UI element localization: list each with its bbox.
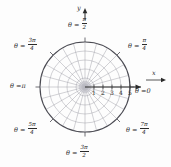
fraction-numerator: π [142, 38, 148, 45]
fraction-pi-2: π 2 [82, 17, 88, 30]
theta-eq-5pi-4: θ = [14, 126, 25, 134]
x-tick-4: 4 [119, 89, 123, 96]
polar-grid-figure: y x 1 2 3 4 5 θ =0 θ = π 4 θ = π 2 θ = 3… [0, 0, 171, 167]
theta-eq-pi-4: θ = [128, 42, 139, 50]
x-tick-2: 2 [101, 89, 105, 96]
theta-value-0: 0 [146, 87, 150, 95]
fraction-denominator: 2 [82, 24, 88, 30]
theta-label-5pi-4: θ = 5π 4 [14, 122, 37, 135]
fraction-5pi-4: 5π 4 [28, 122, 37, 135]
theta-label-3pi-2: θ = 3π 2 [66, 145, 89, 158]
theta-eq-pi-2: θ = [68, 21, 79, 29]
x-tick-5: 5 [128, 89, 132, 96]
fraction-denominator: 2 [80, 152, 89, 158]
fraction-numerator: π [82, 17, 88, 24]
fraction-numerator: 7π [140, 122, 149, 129]
theta-eq-3pi-4: θ = [14, 42, 25, 50]
fraction-3pi-4: 3π 4 [28, 38, 37, 51]
theta-label-3pi-4: θ = 3π 4 [14, 38, 37, 51]
fraction-numerator: 3π [28, 38, 37, 45]
fraction-denominator: 4 [28, 129, 37, 135]
fraction-7pi-4: 7π 4 [140, 122, 149, 135]
y-axis-label: y [77, 5, 81, 12]
fraction-denominator: 4 [28, 45, 37, 51]
y-axis-arrowhead [83, 8, 88, 13]
fraction-pi-4: π 4 [142, 38, 148, 51]
theta-eq-pi: θ = [10, 82, 21, 90]
theta-label-pi: θ =π [10, 83, 26, 90]
x-tick-3: 3 [110, 89, 114, 96]
x-axis-label: x [152, 70, 156, 77]
fraction-3pi-2: 3π 2 [80, 145, 89, 158]
fraction-numerator: 3π [80, 145, 89, 152]
fraction-denominator: 4 [140, 129, 149, 135]
x-axis-label-arrowhead [161, 78, 166, 82]
theta-eq-7pi-4: θ = [126, 126, 137, 134]
x-tick-1: 1 [92, 89, 96, 96]
fraction-numerator: 5π [28, 122, 37, 129]
fraction-denominator: 4 [142, 45, 148, 51]
theta-eq-0: θ = [135, 87, 146, 95]
theta-value-pi: π [21, 82, 25, 90]
theta-label-0: θ =0 [135, 88, 151, 95]
theta-label-pi-2: θ = π 2 [68, 17, 87, 30]
theta-eq-3pi-2: θ = [66, 149, 77, 157]
theta-label-pi-4: θ = π 4 [128, 38, 147, 51]
theta-label-7pi-4: θ = 7π 4 [126, 122, 149, 135]
